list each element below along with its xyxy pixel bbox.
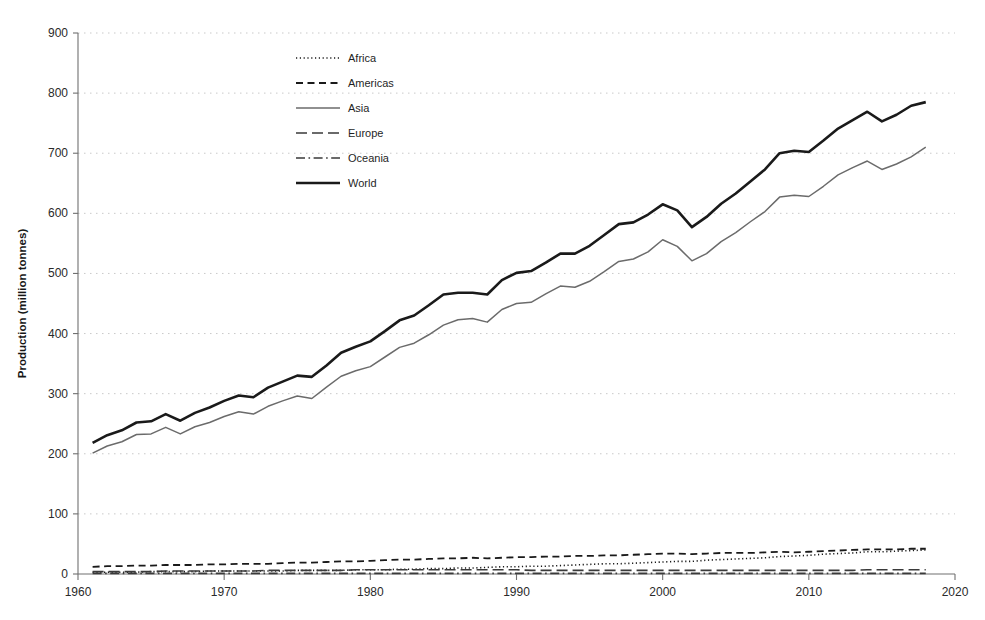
y-tick-label: 400 (48, 327, 68, 341)
legend-label-world: World (348, 177, 377, 189)
series-line-europe (93, 570, 926, 572)
y-tick-label: 0 (61, 567, 68, 581)
y-tick-label: 300 (48, 387, 68, 401)
legend-label-oceania: Oceania (348, 152, 390, 164)
x-tick-label: 1990 (503, 585, 530, 599)
y-tick-label: 800 (48, 86, 68, 100)
legend-label-africa: Africa (348, 52, 377, 64)
x-tick-label: 2010 (795, 585, 822, 599)
y-tick-label: 900 (48, 26, 68, 40)
y-tick-label: 100 (48, 507, 68, 521)
series-line-asia (93, 147, 926, 453)
production-line-chart: 0100200300400500600700800900196019701980… (0, 0, 985, 620)
chart-container: 0100200300400500600700800900196019701980… (0, 0, 985, 620)
x-tick-label: 1970 (211, 585, 238, 599)
legend-label-americas: Americas (348, 77, 394, 89)
legend-label-asia: Asia (348, 102, 370, 114)
legend-label-europe: Europe (348, 127, 383, 139)
series-line-africa (93, 550, 926, 572)
y-tick-label: 600 (48, 206, 68, 220)
series-line-world (93, 102, 926, 443)
legend: AfricaAmericasAsiaEuropeOceaniaWorld (296, 52, 394, 189)
y-tick-label: 200 (48, 447, 68, 461)
axes: 0100200300400500600700800900196019701980… (48, 26, 969, 599)
y-tick-label: 500 (48, 266, 68, 280)
x-tick-label: 1960 (65, 585, 92, 599)
x-tick-label: 1980 (357, 585, 384, 599)
y-axis-title: Production (million tonnes) (16, 229, 28, 379)
x-tick-label: 2020 (942, 585, 969, 599)
y-tick-label: 700 (48, 146, 68, 160)
data-series-group (93, 102, 926, 573)
series-line-americas (93, 549, 926, 567)
x-tick-label: 2000 (649, 585, 676, 599)
